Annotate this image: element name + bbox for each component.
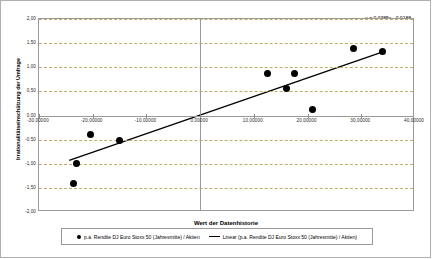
x-axis-tick-label: -20,00000 <box>70 118 114 123</box>
legend-item: p.a. Rendite DJ Euro Stoxx 50 (Jahresmit… <box>77 234 200 240</box>
y-axis-tick-label: 0,50 <box>2 88 36 93</box>
data-point <box>264 70 271 77</box>
y-axis-tick-label: 0,00 <box>2 112 36 117</box>
legend-circle-icon <box>77 235 81 239</box>
trendline <box>39 19 413 210</box>
y-gridline <box>39 188 413 189</box>
x-axis-tick-label: -30,00000 <box>16 118 60 123</box>
x-axis-tick-label: -10,00000 <box>123 118 167 123</box>
y-axis-tick-label: -1,00 <box>2 160 36 165</box>
y-axis-tick-label: -0,50 <box>2 136 36 141</box>
legend-label: Linear (p.a. Rendite DJ Euro Stoxx 50 (J… <box>223 234 357 240</box>
x-axis-tick-label: 0,00000 <box>177 118 221 123</box>
y-axis-tick-label: -2,00 <box>2 209 36 214</box>
data-point <box>87 131 94 138</box>
chart-legend: p.a. Rendite DJ Euro Stoxx 50 (Jahresmit… <box>61 228 373 245</box>
legend-item: Linear (p.a. Rendite DJ Euro Stoxx 50 (J… <box>209 234 357 240</box>
data-point <box>291 70 298 77</box>
plot-area <box>38 18 414 211</box>
legend-line-icon <box>209 236 220 237</box>
y-gridline <box>39 116 413 117</box>
data-point <box>70 180 77 187</box>
x-axis-tick-label: 10,00000 <box>231 118 275 123</box>
y-gridline <box>39 140 413 141</box>
y-gridline <box>39 43 413 44</box>
x-axis-tick-label: 40,00000 <box>392 118 432 123</box>
y-axis-tick-label: 1,50 <box>2 40 36 45</box>
y-gridline <box>39 67 413 68</box>
y-axis-tick-label: -1,50 <box>2 184 36 189</box>
y-axis-tick-label: 1,00 <box>2 64 36 69</box>
x-axis-tick-label: 30,00000 <box>338 118 382 123</box>
legend-label: p.a. Rendite DJ Euro Stoxx 50 (Jahresmit… <box>84 234 200 240</box>
y-gridline <box>39 91 413 92</box>
x-axis-title: Wert der Datenhistorie <box>38 220 414 226</box>
chart-frame: y = 0,0385x - 0,0188 R2 = 0,8285 Wert de… <box>0 0 431 258</box>
y-gridline <box>39 164 413 165</box>
x-axis-tick-label: 20,00000 <box>285 118 329 123</box>
y-axis-tick-label: 2,00 <box>2 16 36 21</box>
y-gridline <box>39 19 413 20</box>
